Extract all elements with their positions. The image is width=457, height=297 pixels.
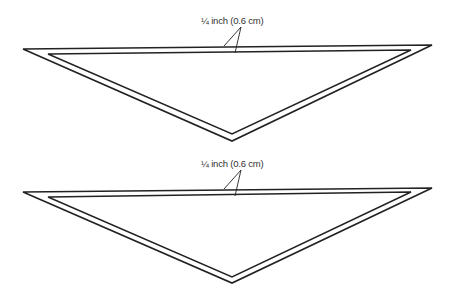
outer-edge-2 (23, 188, 432, 283)
inner-seam-1 (48, 50, 411, 134)
seam-allowance-label-2: ¼ inch (0.6 cm) (201, 158, 263, 169)
triangle-diagram-2 (23, 170, 432, 283)
triangle-diagram-1 (23, 27, 432, 141)
seam-allowance-label-1: ¼ inch (0.6 cm) (201, 15, 263, 26)
outer-edge-1 (23, 45, 432, 141)
diagram-canvas (0, 0, 457, 297)
inner-seam-2 (48, 192, 411, 277)
